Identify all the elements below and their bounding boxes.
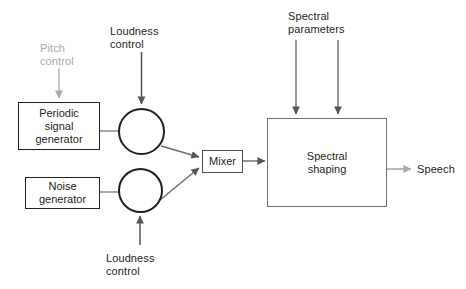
label-pitch-control: Pitch control — [40, 42, 100, 68]
wire-circle-top-to-mixer — [161, 146, 199, 157]
label-speech-output: Speech — [417, 163, 466, 176]
block-periodic-signal-generator-label: Periodic signal generator — [35, 107, 82, 146]
wire-circle-bottom-to-mixer — [160, 168, 199, 200]
block-periodic-signal-generator[interactable]: Periodic signal generator — [18, 102, 100, 150]
label-loudness-control-bottom: Loudness control — [106, 252, 176, 278]
block-mixer[interactable]: Mixer — [202, 150, 243, 173]
block-noise-generator-label: Noise generator — [39, 180, 86, 206]
block-spectral-shaping-label: Spectral shaping — [307, 150, 347, 176]
speech-synthesis-diagram: Pitch control Loudness control Spectral … — [0, 0, 466, 289]
block-mixer-label: Mixer — [209, 155, 236, 168]
block-noise-generator[interactable]: Noise generator — [25, 177, 100, 209]
circle-amplitude-modulator-voiced[interactable] — [118, 108, 165, 155]
block-spectral-shaping[interactable]: Spectral shaping — [267, 118, 387, 207]
label-loudness-control-top: Loudness control — [110, 25, 180, 51]
label-spectral-parameters: Spectral parameters — [288, 10, 374, 36]
circle-amplitude-modulator-unvoiced[interactable] — [118, 168, 163, 213]
